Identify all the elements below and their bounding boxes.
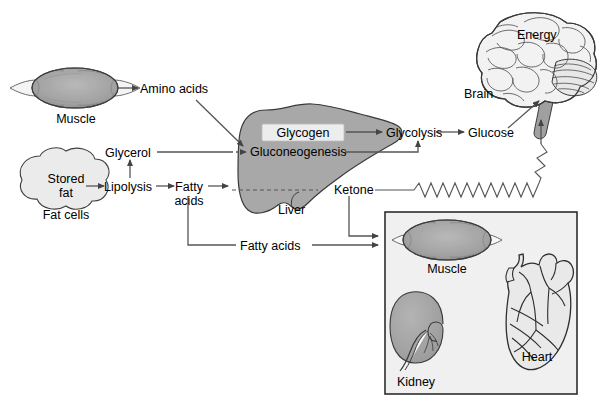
label-heart: Heart (511, 350, 563, 364)
label-glycogen: Glycogen (262, 126, 344, 140)
label-gluconeogenesis: Gluconeogenesis (250, 145, 347, 159)
label-brain: Brain (464, 87, 493, 101)
label-lipolysis: Lipolysis (104, 180, 152, 194)
label-liver: Liver (278, 203, 305, 217)
label-glucose: Glucose (468, 126, 514, 140)
label-kidney: Kidney (388, 375, 444, 389)
label-amino-acids: Amino acids (140, 82, 208, 96)
label-glycolysis: Glycolysis (386, 126, 442, 140)
label-glycerol: Glycerol (105, 146, 151, 160)
label-muscle-box: Muscle (419, 262, 475, 276)
label-stored-fat-line1: Stored (36, 172, 96, 186)
label-fatty-acids-line1: Fatty (168, 180, 210, 194)
label-fatty-acids-lower: Fatty acids (240, 239, 300, 253)
label-energy: Energy (517, 28, 557, 42)
diagram-graphics (0, 0, 603, 404)
edge-ketone-organbox (349, 196, 378, 236)
label-fatty-acids-line2: acids (168, 194, 210, 208)
label-fat-cells: Fat cells (27, 208, 105, 222)
label-ketone: Ketone (334, 183, 374, 197)
label-muscle-top: Muscle (47, 112, 105, 126)
label-stored-fat-line2: fat (36, 186, 96, 200)
diagram-canvas: Muscle Amino acids Stored fat Fat cells … (0, 0, 603, 404)
edge-amino-gluconeo (196, 100, 243, 146)
